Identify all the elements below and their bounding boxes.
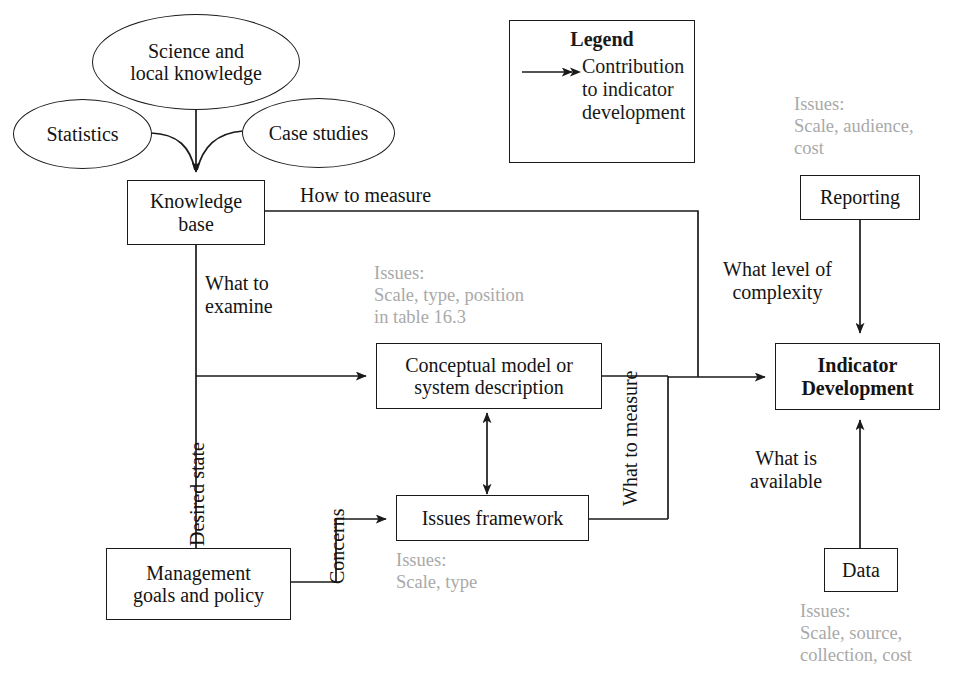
legend-entry-label: Contribution to indicator development	[582, 55, 685, 123]
edge-label-what-level-of-complexity: What level of complexity	[723, 258, 832, 304]
node-issues-framework: Issues framework	[396, 495, 589, 541]
arrow-right-icon	[520, 66, 582, 78]
node-management-goals-and-policy: Management goals and policy	[106, 548, 291, 620]
edge-case-studies-to-knowledge-base	[197, 131, 243, 170]
edge-label-how-to-measure: How to measure	[300, 184, 431, 207]
node-reporting: Reporting	[800, 175, 920, 220]
legend-title: Legend	[510, 28, 694, 51]
legend: Legend Contribution to indicator develop…	[509, 20, 695, 163]
edge-label-desired-state: Desired state	[186, 442, 209, 546]
edge-statistics-to-knowledge-base	[151, 133, 195, 170]
issues-note-data: Issues: Scale, source, collection, cost	[800, 600, 912, 667]
issues-note-reporting: Issues: Scale, audience, cost	[794, 93, 914, 160]
node-indicator-development: Indicator Development	[775, 343, 940, 410]
node-science-and-local-knowledge: Science and local knowledge	[92, 14, 300, 110]
node-label: Conceptual model or system description	[405, 354, 573, 399]
node-case-studies: Case studies	[242, 98, 395, 168]
edge-label-what-is-available: What is available	[750, 447, 822, 493]
node-data: Data	[824, 548, 898, 592]
edge-label-what-to-examine: What to examine	[205, 272, 273, 318]
issues-note-issues-framework: Issues: Scale, type	[396, 549, 477, 593]
node-conceptual-model: Conceptual model or system description	[376, 343, 602, 409]
issues-note-conceptual-model: Issues: Scale, type, position in table 1…	[374, 262, 524, 329]
diagram-canvas: Science and local knowledge Statistics C…	[0, 0, 972, 679]
node-label: Reporting	[820, 186, 900, 208]
node-label: Statistics	[46, 123, 118, 145]
node-label: Science and local knowledge	[130, 40, 262, 85]
edge-label-what-to-measure: What to measure	[619, 371, 642, 507]
node-label: Knowledge base	[150, 190, 242, 235]
node-label: Management goals and policy	[133, 562, 264, 607]
node-statistics: Statistics	[13, 99, 152, 169]
node-label: Case studies	[269, 122, 368, 144]
legend-entry: Contribution to indicator development	[510, 55, 694, 123]
node-label: Indicator Development	[801, 354, 913, 399]
edge-label-concerns: Concerns	[326, 508, 349, 584]
node-knowledge-base: Knowledge base	[127, 180, 265, 245]
node-label: Issues framework	[422, 507, 564, 529]
node-label: Data	[842, 559, 880, 581]
